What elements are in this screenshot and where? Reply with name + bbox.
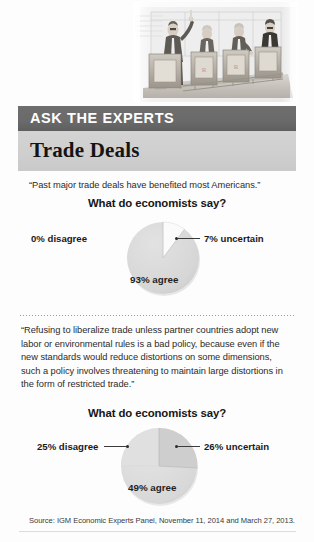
title-band: Trade Deals [18, 131, 296, 171]
svg-text:R: R [234, 63, 239, 71]
section-divider [19, 315, 296, 316]
kicker-label: ASK THE EXPERTS [30, 110, 174, 126]
pie-2-label-uncertain: 26% uncertain [204, 441, 269, 452]
expert-panel-photo-illustration: R R [133, 2, 298, 102]
pie-chart-2: 25% disagree 26% uncertain 49% agree [0, 424, 314, 510]
pie-2-leader-line-disagree [104, 446, 126, 447]
svg-text:R: R [202, 66, 207, 74]
pie-2-leader-line-uncertain [178, 446, 200, 447]
pie-1-label-agree: 93% agree [130, 274, 178, 285]
chart-heading-2: What do economists say? [0, 407, 314, 419]
source-note: Source: IGM Economic Experts Panel, Nove… [29, 516, 295, 525]
pie-chart-2-graphic [118, 424, 202, 508]
pie-2-label-disagree: 25% disagree [37, 441, 98, 452]
pie-1-label-disagree: 0% disagree [31, 233, 87, 244]
pie-2-label-agree: 49% agree [128, 482, 176, 493]
infographic-page: R R ASK THE EXP [0, 0, 314, 542]
ask-the-experts-band: ASK THE EXPERTS [18, 106, 296, 131]
chart-heading-1: What do economists say? [0, 197, 314, 209]
pie-1-leader-line-uncertain [178, 238, 200, 239]
pie-chart-1-graphic [127, 219, 201, 297]
quote-text-1: “Past major trade deals have benefited m… [29, 179, 295, 193]
pie-1-label-uncertain: 7% uncertain [204, 233, 264, 244]
expert-panel-photo: R R [133, 2, 298, 102]
pie-chart-1: 0% disagree 7% uncertain 93% agree [0, 216, 314, 302]
footer-rule [19, 531, 296, 532]
pie-2-leader-dot-disagree [126, 445, 129, 448]
quote-text-2: “Refusing to liberalize trade unless par… [21, 324, 293, 392]
page-title: Trade Deals [30, 138, 140, 163]
